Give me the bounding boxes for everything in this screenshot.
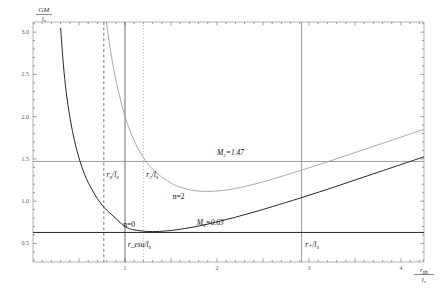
plot-area: 12340.51.01.52.02.53.0M₂=1.47M₀=0.63n=0n… (0, 0, 440, 291)
x-axis-title-numerator: rph (420, 266, 428, 275)
y-axis-title-denominator: l₀ (42, 15, 47, 23)
label-M0: M₀=0.63 (196, 218, 224, 227)
chart-figure: 12340.51.01.52.02.53.0M₂=1.47M₀=0.63n=0n… (0, 0, 440, 291)
x-axis-title-denominator: l₀ (422, 276, 427, 284)
label-M2: M₂=1.47 (216, 148, 244, 157)
y-tick-label: 2.5 (22, 71, 30, 77)
x-tick-label: 2 (216, 265, 219, 271)
y-tick-label: 3.0 (22, 29, 30, 35)
label-resu: r_esu/l₀ (128, 240, 152, 249)
label-n0: n=0 (123, 220, 135, 229)
label-r2: r₂/l₀ (146, 170, 159, 179)
label-r0: r₀/l₀ (107, 170, 120, 179)
y-tick-label: 1.5 (22, 156, 30, 162)
y-tick-label: 2.0 (22, 114, 30, 120)
label-rplus: r₊/l₀ (305, 240, 319, 249)
label-n2: n=2 (173, 192, 185, 201)
x-tick-label: 1 (124, 265, 127, 271)
plot-frame (33, 22, 424, 262)
y-tick-label: 0.5 (22, 240, 30, 246)
x-tick-label: 4 (400, 265, 403, 271)
y-axis-title-numerator: GM (39, 6, 51, 14)
x-tick-label: 3 (308, 265, 311, 271)
y-tick-label: 1.0 (22, 198, 30, 204)
